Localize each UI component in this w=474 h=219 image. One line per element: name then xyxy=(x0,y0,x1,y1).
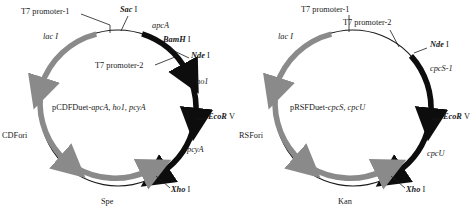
leader-sac-i xyxy=(121,16,128,31)
label-feature-spe: Spe xyxy=(101,198,113,206)
label-ecor-v: EcoR V xyxy=(443,113,470,121)
label-t7-promoter-2: T7 promoter-2 xyxy=(343,19,391,27)
label-t7-promoter-2: T7 promoter-2 xyxy=(95,62,143,70)
leader-t7-promoter-1 xyxy=(81,14,110,33)
label-gene-cpcs1: cpcS-1 xyxy=(430,65,453,73)
label-feature-kan: Kan xyxy=(338,198,352,206)
label-feature-laci: lac I xyxy=(278,33,293,41)
label-xho-i: Xho I xyxy=(171,186,190,194)
plasmid-figure: T7 promoter-1 Sac I apcA BamH I Nde I T7… xyxy=(0,0,474,219)
leader-nde-i xyxy=(414,48,427,53)
label-feature-rsfori: RSFori xyxy=(239,132,263,140)
label-bamh-i: BamH I xyxy=(163,36,190,44)
leader-xho-i xyxy=(391,176,405,188)
leader-t7-promoter-2 xyxy=(155,57,175,65)
label-gene-apca: apcA xyxy=(152,22,169,30)
gene-arc-cpcs1 xyxy=(411,56,431,116)
label-feature-laci: lac I xyxy=(43,33,58,41)
label-nde-i: Nde I xyxy=(191,52,210,60)
plasmid-center-label-right: pRSFDuet-cpcS, cpcU xyxy=(290,104,365,112)
label-xho-i: Xho I xyxy=(406,186,425,194)
feature-arc-laci xyxy=(41,34,96,86)
leader-xho-i xyxy=(156,176,170,188)
feature-arc-laci xyxy=(276,34,331,86)
plasmid-center-label-left: pCDFDuet-apcA, ho1, pcyA xyxy=(52,104,146,112)
label-gene-cpcu: cpcU xyxy=(427,150,445,158)
label-sac-i: Sac I xyxy=(120,6,137,14)
feature-arc-kan xyxy=(310,167,384,178)
label-gene-pcya: pcyA xyxy=(187,146,204,154)
plasmid-map-pcdfduet: T7 promoter-1 Sac I apcA BamH I Nde I T7… xyxy=(0,0,237,219)
gene-arc-ho1 xyxy=(191,81,196,116)
label-feature-cdfori: CDFori xyxy=(2,132,27,140)
feature-arc-spe xyxy=(75,167,149,178)
label-gene-ho1: ho1 xyxy=(196,78,208,86)
gene-arc-cpcu xyxy=(397,124,430,173)
label-t7-promoter-1: T7 promoter-1 xyxy=(21,8,69,16)
label-ecor-v: EcoR V xyxy=(208,113,235,121)
plasmid-map-prsfduet: T7 promoter-1 T7 promoter-2 Nde I cpcS-1… xyxy=(237,0,474,219)
label-nde-i: Nde I xyxy=(430,41,449,49)
label-t7-promoter-1: T7 promoter-1 xyxy=(301,6,349,14)
leader-t7-promoter-2 xyxy=(390,30,399,47)
